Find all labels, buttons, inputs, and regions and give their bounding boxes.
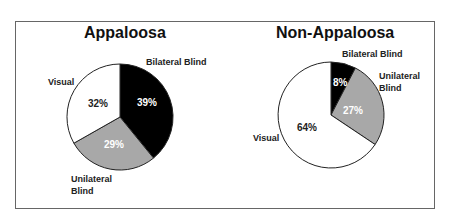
pct-bilateral: 8% [333, 77, 348, 88]
pie-non-appaloosa: 8% 27% 64% [278, 62, 384, 168]
pie-appaloosa: 39% 29% 32% [67, 64, 173, 170]
pct-visual: 32% [88, 98, 108, 109]
label-unilateral-line1: Unilateral [379, 71, 420, 82]
label-visual: Visual [48, 77, 74, 88]
pct-bilateral: 39% [137, 97, 157, 108]
label-unilateral-line2: Blind [379, 83, 402, 94]
pie-charts: 39% 29% 32% 8% 27% 64% [0, 0, 452, 224]
pct-visual: 64% [297, 122, 317, 133]
label-bilateral-blind: Bilateral Blind [342, 49, 403, 60]
label-visual: Visual [253, 133, 279, 144]
label-unilateral-line2: Blind [71, 186, 94, 197]
pct-unilateral: 27% [343, 105, 363, 116]
label-unilateral-line1: Unilateral [71, 174, 112, 185]
pct-unilateral: 29% [104, 139, 124, 150]
label-bilateral-blind: Bilateral Blind [146, 57, 207, 68]
